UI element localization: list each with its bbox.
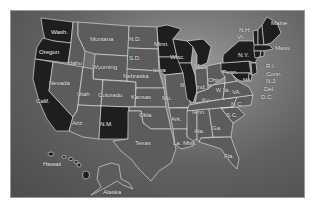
label-ct: Conn.: [266, 70, 282, 77]
label-ak: Alaska: [103, 188, 121, 195]
label-ia: Iowa: [153, 66, 166, 73]
label-fl: Fla.: [224, 152, 234, 159]
label-nh: N.H.: [239, 26, 251, 33]
label-nv: Nevada: [49, 79, 70, 86]
label-nd: N.D.: [129, 35, 141, 42]
label-co: Colorado: [98, 91, 122, 98]
label-ri: R.I.: [266, 62, 275, 69]
us-map: Wash. Oregon Calif. Idaho Nevada Montana…: [10, 10, 305, 198]
label-ca: Calif.: [36, 97, 50, 104]
bottom-margin: [10, 199, 305, 209]
label-de: Del.: [264, 85, 275, 92]
label-tn: Tenn.: [191, 108, 206, 115]
label-sd: S.D.: [129, 54, 141, 61]
label-in: Ind.: [196, 83, 206, 90]
label-mo: Mo.: [162, 94, 172, 101]
label-wv: W. Va.: [216, 87, 230, 94]
label-ga: Ga.: [212, 124, 222, 131]
label-ks: Kansas: [131, 93, 151, 100]
state-vt[interactable]: [253, 30, 258, 45]
label-la: La.: [173, 139, 181, 146]
label-ut: Utah: [77, 90, 90, 97]
label-mt: Montana: [90, 35, 113, 42]
label-al: Ala.: [194, 127, 204, 134]
label-il: Ill.: [180, 81, 186, 88]
label-ny: N.Y.: [238, 51, 249, 58]
state-ri[interactable]: [260, 51, 264, 57]
label-az: Ariz.: [72, 119, 84, 126]
label-dc: D.C.: [261, 93, 273, 100]
label-wy: Wyoming: [92, 63, 117, 70]
label-va: VA.: [232, 88, 241, 95]
label-mn: Minn.: [154, 40, 169, 47]
label-vt: Vt.: [237, 33, 244, 40]
label-ky: Ky.: [202, 96, 210, 103]
label-md: Md.: [243, 77, 251, 84]
label-nj: N.J.: [266, 77, 277, 84]
label-wa: Wash.: [51, 28, 68, 35]
state-nj[interactable]: [251, 63, 257, 75]
label-me: Maine: [271, 19, 287, 26]
label-hi: Hawaii: [43, 160, 61, 167]
label-id: Idaho: [67, 59, 82, 66]
label-ar: Ark.: [171, 115, 182, 122]
label-wi: Wisc.: [170, 53, 185, 60]
label-ne: Nebraska: [123, 72, 149, 79]
label-nm: N.M.: [100, 120, 113, 127]
label-tx: Texas: [135, 139, 151, 146]
label-or: Oregon: [39, 48, 59, 55]
label-mi: Mich.: [194, 62, 208, 69]
label-pa: Penn.: [222, 68, 238, 75]
label-ma: Mass.: [275, 44, 291, 51]
label-nc: N.C.: [231, 100, 243, 107]
label-sc: S.C.: [226, 111, 238, 118]
label-ms: Miss.: [183, 139, 197, 146]
state-ma[interactable]: [254, 45, 273, 51]
label-ok: Okla.: [139, 111, 153, 118]
label-oh: Ohio: [208, 76, 221, 83]
